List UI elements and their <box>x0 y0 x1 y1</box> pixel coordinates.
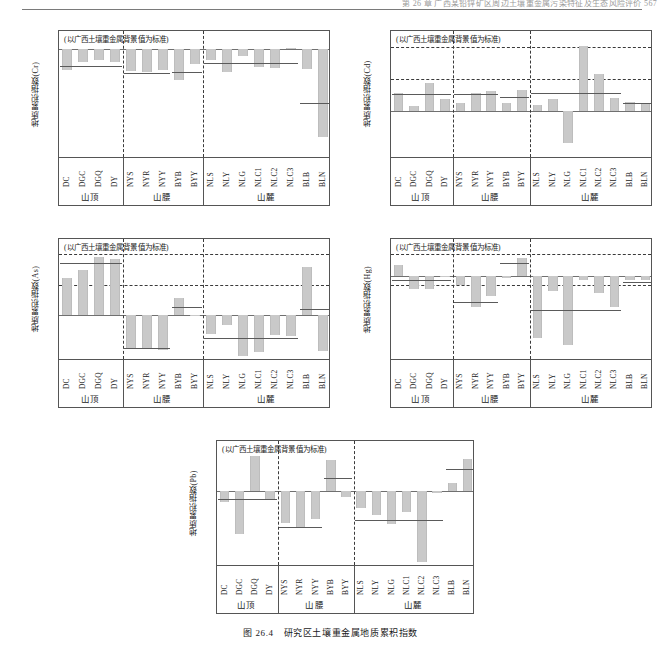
x-tick-label-DY: DY <box>265 568 274 595</box>
bar-Pb-BYY <box>341 491 350 497</box>
x-tick-label-BLB: BLB <box>447 568 456 595</box>
panel-note-pb: (以广西土壤重金属背景值为标准) <box>222 443 327 454</box>
bar-Pb-BYB <box>326 460 335 492</box>
bar-Pb-NYS <box>281 491 290 523</box>
x-tick-label-NYS: NYS <box>280 568 289 595</box>
bar-Pb-NYR <box>296 491 305 527</box>
figure-caption-number: 图 26.4 <box>243 628 274 638</box>
x-tick-label-NYR: NYR <box>295 568 304 595</box>
x-tick-label-NYY: NYY <box>311 568 320 595</box>
group-label-2: 山麓 <box>353 598 474 610</box>
y-tick-mark <box>216 441 217 442</box>
group-mean-line <box>324 478 352 479</box>
y-tick-mark <box>216 466 217 467</box>
x-tick-label-NLY: NLY <box>371 568 380 595</box>
plot-area-pb: 0.80.40.0−0.4−0.8−1.2 <box>216 440 474 566</box>
x-tick-label-NLC1: NLC1 <box>402 568 411 595</box>
figure-caption-text: 研究区土壤重金属地质累积指数 <box>284 628 418 638</box>
group-separator <box>278 441 279 565</box>
y-axis-label-pb: 地质累积指数(Pb) <box>188 444 199 562</box>
bar-Pb-DGQ <box>250 456 259 491</box>
bar-Pb-BLN <box>463 459 472 491</box>
group-mean-line <box>218 499 276 500</box>
x-tick-label-BYY: BYY <box>341 568 350 595</box>
group-mean-line <box>446 469 474 470</box>
x-tick-label-DGC: DGC <box>235 568 244 595</box>
group-label-0: 山顶 <box>216 598 277 610</box>
y-tick-mark <box>216 517 217 518</box>
figure-caption: 图 26.4研究区土壤重金属地质累积指数 <box>0 626 661 639</box>
x-tick-label-NLC3: NLC3 <box>432 568 441 595</box>
x-tick-label-NLC2: NLC2 <box>417 568 426 595</box>
x-tick-label-NLG: NLG <box>387 568 396 595</box>
bar-Pb-DGC <box>235 491 244 533</box>
group-label-1: 山腰 <box>277 598 353 610</box>
group-separator <box>354 441 355 565</box>
bar-Pb-BLB <box>448 483 457 492</box>
x-tick-label-BYB: BYB <box>326 568 335 595</box>
bar-Pb-DC <box>220 491 229 502</box>
x-tick-label-DGQ: DGQ <box>250 568 259 595</box>
chart-panel-pb: 0.80.40.0−0.4−0.8−1.2(以广西土壤重金属背景值为标准)地质累… <box>0 0 661 661</box>
x-tick-label-BLN: BLN <box>462 568 471 595</box>
bar-Pb-NYY <box>311 491 320 519</box>
x-tick-label-DC: DC <box>220 568 229 595</box>
group-mean-line <box>355 520 444 521</box>
x-tick-label-NLS: NLS <box>356 568 365 595</box>
bar-Pb-NLC2 <box>417 491 426 562</box>
bar-Pb-NLY <box>372 491 381 515</box>
group-mean-line <box>279 527 322 528</box>
y-tick-mark <box>216 542 217 543</box>
bar-Pb-NLS <box>356 491 365 508</box>
bar-Pb-NLC1 <box>402 491 411 512</box>
bar-Pb-NLC3 <box>432 491 441 492</box>
